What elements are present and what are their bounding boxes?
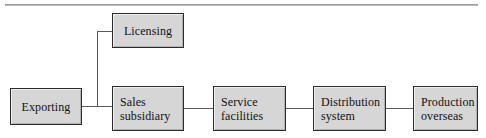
connector-riser-to-licensing xyxy=(97,31,112,32)
node-production-overseas: Production overseas xyxy=(413,86,478,131)
connector-junction-to-sales-subsidiary xyxy=(98,106,112,107)
node-distribution-system: Distribution system xyxy=(313,86,386,131)
node-service-facilities-label-line-1: Service xyxy=(221,95,258,109)
node-exporting-label-line-1: Exporting xyxy=(22,100,71,114)
node-distribution-system-label-line-1: Distribution xyxy=(321,95,380,109)
connector-service-facilities-to-distribution-system xyxy=(286,108,313,109)
connector-distribution-system-to-production-overseas xyxy=(386,108,413,109)
flowchart-diagram: Exporting Licensing Sales subsidiary Ser… xyxy=(0,0,486,138)
connector-sales-subsidiary-to-service-facilities xyxy=(184,108,213,109)
node-sales-subsidiary-label-line-1: Sales xyxy=(120,95,146,109)
node-service-facilities: Service facilities xyxy=(213,86,286,131)
node-licensing-label-line-1: Licensing xyxy=(124,24,172,38)
connector-exporting-to-junction xyxy=(82,106,98,107)
node-distribution-system-label-line-2: system xyxy=(321,109,355,123)
horizontal-rule-divider xyxy=(5,4,478,6)
connector-junction-riser-to-licensing xyxy=(97,31,98,107)
node-production-overseas-label-line-1: Production xyxy=(421,95,475,109)
node-production-overseas-label-line-2: overseas xyxy=(421,109,463,123)
node-licensing: Licensing xyxy=(112,13,184,48)
node-sales-subsidiary: Sales subsidiary xyxy=(112,86,184,131)
node-exporting: Exporting xyxy=(10,88,82,125)
node-service-facilities-label-line-2: facilities xyxy=(221,109,263,123)
node-sales-subsidiary-label-line-2: subsidiary xyxy=(120,109,170,123)
